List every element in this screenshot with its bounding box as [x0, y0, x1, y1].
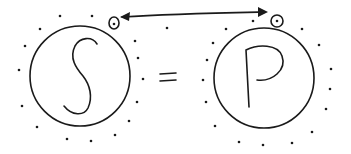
double-headed-arrow: [120, 7, 268, 21]
right-node-dots: [166, 20, 333, 147]
right-node-circle: [214, 28, 314, 128]
arrowhead-right-icon: [258, 7, 268, 17]
right-node: [214, 28, 314, 128]
left-node-dots: [18, 15, 145, 143]
left-node: [30, 26, 130, 126]
right-marker: [271, 15, 283, 27]
arrowhead-left-icon: [120, 12, 130, 21]
right-node-letter-p: [246, 46, 283, 107]
left-node-letter-s: [64, 39, 97, 114]
diagram-canvas: [0, 0, 351, 154]
equals-sign: [160, 73, 176, 81]
left-marker: [109, 17, 119, 29]
